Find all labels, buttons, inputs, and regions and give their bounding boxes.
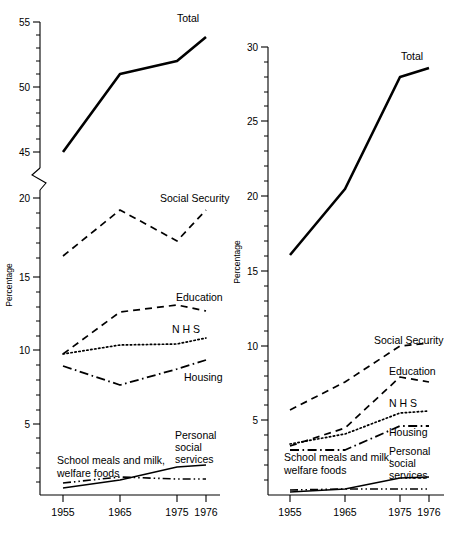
right-label-nhs: N H S [389,397,417,409]
left-label-pss-line3: services [175,453,214,465]
right-y-ticks-major [261,47,268,420]
left-label-pss-line2: social [175,441,202,453]
left-ytick-15: 15 [19,272,31,283]
right-label-pss-line1: Personal [389,445,430,457]
left-y-ticks-minor-lower [36,213,40,482]
left-label-education: Education [176,291,223,303]
right-series-total [290,68,429,255]
left-ytick-55: 55 [19,17,31,28]
right-ytick-15: 15 [247,266,259,277]
left-ytick-45: 45 [19,147,31,158]
left-label-total: Total [177,12,199,24]
right-ytick-25: 25 [247,116,259,127]
right-ytick-5: 5 [252,415,258,426]
left-xtick-1976: 1976 [194,506,218,518]
left-ytick-5: 5 [24,419,30,430]
left-ytick-10: 10 [19,345,31,356]
left-label-school-meals-line2: welfare foods [56,467,119,479]
right-label-education: Education [389,365,436,377]
chart-panel-right: 30 25 20 15 10 5 Percentage 1955 1965 19… [226,0,451,533]
right-chart-svg: 30 25 20 15 10 5 Percentage 1955 1965 19… [226,0,451,533]
right-ytick-20: 20 [247,191,259,202]
left-label-housing: Housing [184,371,223,383]
left-xtick-1975: 1975 [165,506,189,518]
left-x-ticks [63,495,206,502]
left-xtick-1965: 1965 [108,506,132,518]
left-series-total [63,37,206,152]
left-y-ticks-major-lower [33,198,40,424]
left-label-nhs: N H S [172,323,200,335]
right-x-ticks [290,495,429,502]
two-panel-line-chart-figure: 55 50 45 20 15 10 5 Percentage 1955 1965… [0,0,451,533]
right-y-axis-title: Percentage [232,240,242,284]
right-label-total: Total [401,50,423,62]
right-label-school-meals-line2: welfare foods [283,464,346,476]
left-label-pss-line1: Personal [175,429,216,441]
left-xtick-1955: 1955 [51,506,75,518]
right-xtick-1975: 1975 [388,506,412,518]
right-label-social-security: Social Security [374,334,444,346]
left-label-social-security: Social Security [160,192,230,204]
right-xtick-1955: 1955 [278,506,302,518]
right-label-school-meals-line1: School meals and milk, [284,451,392,463]
right-xtick-1965: 1965 [333,506,357,518]
left-chart-svg: 55 50 45 20 15 10 5 Percentage 1955 1965… [0,0,226,533]
left-y-ticks-major-upper [33,22,40,152]
left-label-school-meals-line1: School meals and milk, [57,454,165,466]
left-axis-break-marker [32,168,46,190]
right-label-pss-line2: social [389,457,416,469]
right-xtick-1976: 1976 [417,506,441,518]
chart-panel-left: 55 50 45 20 15 10 5 Percentage 1955 1965… [0,0,226,533]
left-ytick-20: 20 [19,193,31,204]
left-series-social-security [63,210,206,256]
right-series-school-meals [290,489,429,490]
right-ytick-30: 30 [247,42,259,53]
left-y-axis-title: Percentage [4,263,14,307]
right-label-housing: Housing [389,426,428,438]
right-ytick-10: 10 [247,341,259,352]
left-ytick-50: 50 [19,82,31,93]
left-series-nhs [63,338,206,354]
right-label-pss-line3: services [389,469,428,481]
